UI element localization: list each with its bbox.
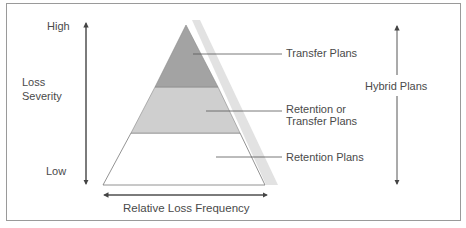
pyramid-layer-retention: [103, 133, 265, 185]
pyramid-layer-retention-or-transfer: [131, 87, 240, 133]
severity-low-label: Low: [46, 165, 66, 178]
pyramid-diagram: [0, 0, 466, 228]
severity-title-line1: Loss: [22, 76, 45, 89]
hybrid-plans-label: Hybrid Plans: [365, 80, 427, 93]
layer-label-transfer: Transfer Plans: [286, 47, 357, 60]
frequency-axis-title: Relative Loss Frequency: [123, 202, 250, 215]
severity-title-line2: Severity: [22, 90, 62, 103]
severity-high-label: High: [47, 20, 70, 33]
layer-label-retention: Retention Plans: [286, 151, 364, 164]
layer-label-retention-or-transfer-line2: Transfer Plans: [286, 115, 357, 128]
